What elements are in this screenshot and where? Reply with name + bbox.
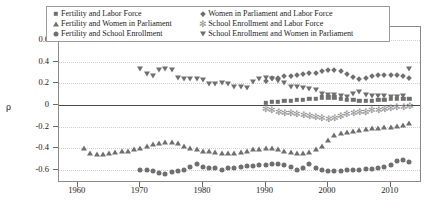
data-point-circle xyxy=(138,168,143,173)
legend-entry[interactable]: Fertility and Women in Parliament xyxy=(50,19,197,29)
data-point-triangle-up xyxy=(181,144,187,149)
data-point-triangle-up xyxy=(338,131,344,136)
legend-marker-triangle-down-icon xyxy=(197,29,208,39)
x-axis-tick-label: 1980 xyxy=(182,186,222,195)
data-point-triangle-up xyxy=(225,150,231,155)
data-point-triangle-up xyxy=(331,133,337,138)
data-point-square xyxy=(363,98,367,102)
data-point-triangle-down xyxy=(306,86,312,91)
x-axis-tick-label: 2010 xyxy=(370,186,410,195)
legend-label: Fertility and Labor Force xyxy=(61,10,142,18)
data-point-triangle-up xyxy=(150,142,156,147)
legend-entry[interactable]: Women in Parliament and Labor Force xyxy=(197,9,386,19)
data-point-triangle-down xyxy=(363,93,369,98)
data-point-triangle-up xyxy=(400,122,406,127)
data-point-triangle-up xyxy=(238,149,244,154)
legend-entry[interactable]: School Enrollment and Women in Parliamen… xyxy=(197,29,386,39)
data-point-triangle-down xyxy=(350,92,356,97)
data-point-triangle-down xyxy=(400,94,406,99)
data-point-diamond xyxy=(369,73,375,79)
data-point-circle xyxy=(332,169,337,174)
data-point-triangle-down xyxy=(150,73,156,78)
data-point-triangle-up xyxy=(87,150,93,155)
data-point-circle xyxy=(213,165,218,170)
data-point-triangle-up xyxy=(294,150,300,155)
data-point-circle xyxy=(313,165,318,170)
data-point-triangle-down xyxy=(288,84,294,89)
data-point-triangle-up xyxy=(300,150,306,155)
data-point-circle xyxy=(338,169,343,174)
x-axis-tick-mark xyxy=(139,182,140,187)
data-point-square xyxy=(282,98,286,102)
data-point-triangle-up xyxy=(156,140,162,145)
data-point-circle xyxy=(225,165,230,170)
data-point-triangle-up xyxy=(200,148,206,153)
legend-label: School Enrollment and Labor Force xyxy=(208,20,323,28)
legend-marker-asterisk-icon: ✻ xyxy=(197,19,208,29)
data-point-triangle-up xyxy=(162,139,168,144)
plot-area: ✻✻✻✻✻✻✻✻✻✻✻✻✻✻✻✻✻✻✻✻✻✻✻✻ xyxy=(59,27,420,181)
y-axis-tick-label: 0 xyxy=(23,100,49,109)
data-point-circle xyxy=(244,163,249,168)
data-point-circle xyxy=(269,161,274,166)
data-point-circle xyxy=(157,171,162,176)
data-point-square xyxy=(270,100,274,104)
data-point-triangle-up xyxy=(363,126,369,131)
data-point-triangle-up xyxy=(131,147,137,152)
data-point-triangle-down xyxy=(256,77,262,82)
data-point-circle xyxy=(357,168,362,173)
data-point-triangle-down xyxy=(319,92,325,97)
data-point-triangle-up xyxy=(119,148,125,153)
data-point-triangle-up xyxy=(388,124,394,129)
gridline-horizontal xyxy=(59,62,420,63)
legend-entry[interactable]: Fertility and School Enrollment xyxy=(50,29,197,39)
data-point-square xyxy=(295,97,299,101)
data-point-circle xyxy=(382,164,387,169)
data-point-triangle-up xyxy=(269,146,275,151)
legend-entry[interactable]: ✻School Enrollment and Labor Force xyxy=(197,19,386,29)
data-point-triangle-down xyxy=(331,93,337,98)
data-point-circle xyxy=(219,168,224,173)
data-point-square xyxy=(313,96,317,100)
data-point-circle xyxy=(307,161,312,166)
legend-entry[interactable]: Fertility and Labor Force xyxy=(50,9,197,19)
y-axis-tick-label: -0.4 xyxy=(23,143,49,152)
x-axis-tick-mark xyxy=(390,182,391,187)
data-point-triangle-up xyxy=(112,149,118,154)
data-point-circle xyxy=(144,168,149,173)
data-point-triangle-down xyxy=(406,67,412,72)
data-point-triangle-down xyxy=(394,95,400,100)
data-point-triangle-up xyxy=(231,150,237,155)
data-point-triangle-down xyxy=(231,84,237,89)
data-point-triangle-up xyxy=(169,139,175,144)
data-point-triangle-up xyxy=(94,151,100,156)
data-point-triangle-down xyxy=(206,82,212,87)
data-point-triangle-down xyxy=(356,90,362,95)
data-point-square xyxy=(307,96,311,100)
data-point-diamond xyxy=(307,70,313,76)
data-point-triangle-down xyxy=(162,67,168,72)
plot-frame: ✻✻✻✻✻✻✻✻✻✻✻✻✻✻✻✻✻✻✻✻✻✻✻✻ xyxy=(58,26,421,182)
data-point-square xyxy=(351,97,355,101)
data-point-circle xyxy=(188,164,193,169)
data-point-diamond xyxy=(294,72,300,78)
x-axis-tick-label: 2000 xyxy=(307,186,347,195)
data-point-circle xyxy=(150,169,155,174)
legend-marker-square-icon xyxy=(50,9,61,19)
legend-column-right: Women in Parliament and Labor Force✻Scho… xyxy=(197,9,386,39)
data-point-circle xyxy=(232,165,237,170)
data-point-triangle-down xyxy=(338,94,344,99)
data-point-triangle-down xyxy=(275,79,281,84)
data-point-triangle-down xyxy=(325,93,331,98)
data-point-diamond xyxy=(363,75,369,81)
data-point-triangle-up xyxy=(263,146,269,151)
legend-column-left: Fertility and Labor ForceFertility and W… xyxy=(50,9,197,39)
data-point-triangle-up xyxy=(244,148,250,153)
data-point-triangle-down xyxy=(250,80,256,85)
data-point-triangle-up xyxy=(394,123,400,128)
data-point-diamond xyxy=(282,73,288,79)
y-axis-tick-label: 0.4 xyxy=(23,57,49,66)
data-point-triangle-up xyxy=(125,148,131,153)
data-point-triangle-down xyxy=(219,81,225,86)
data-point-triangle-down xyxy=(244,85,250,90)
